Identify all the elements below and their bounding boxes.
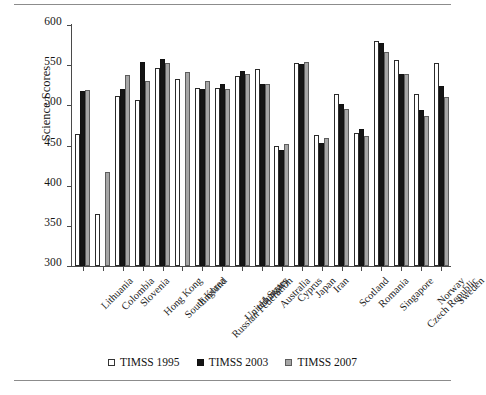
bar bbox=[404, 74, 409, 266]
bar bbox=[324, 138, 329, 266]
y-tick-label: 350 bbox=[44, 217, 62, 229]
bar-group bbox=[354, 25, 369, 266]
y-tick-mark bbox=[67, 266, 72, 267]
bar-group bbox=[394, 25, 409, 266]
bar-group bbox=[374, 25, 389, 266]
legend-entry: TIMSS 1995 bbox=[108, 356, 180, 368]
bar-group bbox=[314, 25, 329, 266]
bar-group bbox=[274, 25, 289, 266]
bar-group bbox=[195, 25, 210, 266]
bar bbox=[145, 81, 150, 266]
y-tick-label: 400 bbox=[44, 177, 62, 189]
bar bbox=[125, 75, 130, 266]
y-tick-label: 500 bbox=[44, 96, 62, 108]
legend-entry: TIMSS 2003 bbox=[197, 356, 269, 368]
bar bbox=[265, 84, 270, 266]
y-tick-label: 550 bbox=[44, 56, 62, 68]
bar-group bbox=[75, 25, 90, 266]
bar bbox=[384, 52, 389, 266]
bar bbox=[165, 63, 170, 266]
bar bbox=[364, 136, 369, 266]
legend-entry: TIMSS 2007 bbox=[285, 356, 357, 368]
y-tick-label: 600 bbox=[44, 16, 62, 28]
bar-group bbox=[135, 25, 150, 266]
bar-group bbox=[434, 25, 449, 266]
bar bbox=[284, 144, 289, 266]
legend-label: TIMSS 1995 bbox=[120, 356, 180, 368]
bar bbox=[175, 79, 180, 266]
bar bbox=[85, 90, 90, 266]
plot-area bbox=[72, 25, 450, 266]
bar bbox=[424, 116, 429, 266]
bar bbox=[245, 74, 250, 266]
y-tick-label: 300 bbox=[44, 257, 62, 269]
bottom-rule bbox=[14, 380, 451, 381]
bar-group bbox=[155, 25, 170, 266]
bar-group bbox=[115, 25, 130, 266]
bar bbox=[444, 97, 449, 267]
bar-group bbox=[95, 25, 110, 266]
white-square-icon bbox=[108, 359, 115, 366]
bar bbox=[205, 81, 210, 266]
chart-legend: TIMSS 1995TIMSS 2003TIMSS 2007 bbox=[0, 356, 465, 368]
black-square-icon bbox=[197, 359, 204, 366]
bar-group bbox=[294, 25, 309, 266]
x-axis-category-labels: LithuaniaColombiaSloveniaHong KongSouth … bbox=[0, 271, 465, 349]
bar bbox=[225, 89, 230, 266]
bar-group bbox=[255, 25, 270, 266]
legend-label: TIMSS 2003 bbox=[209, 356, 269, 368]
bar bbox=[105, 172, 110, 266]
legend-label: TIMSS 2007 bbox=[297, 356, 357, 368]
y-tick-label: 450 bbox=[44, 137, 62, 149]
bar-group bbox=[235, 25, 250, 266]
gray-square-icon bbox=[285, 359, 292, 366]
bar-group bbox=[414, 25, 429, 266]
bar-group bbox=[175, 25, 190, 266]
bar-group bbox=[334, 25, 349, 266]
bar bbox=[185, 72, 190, 266]
x-axis-line bbox=[71, 266, 451, 267]
bar bbox=[304, 62, 309, 266]
top-rule bbox=[14, 4, 451, 5]
bar bbox=[344, 109, 349, 266]
bar bbox=[95, 214, 100, 266]
bar-group bbox=[215, 25, 230, 266]
